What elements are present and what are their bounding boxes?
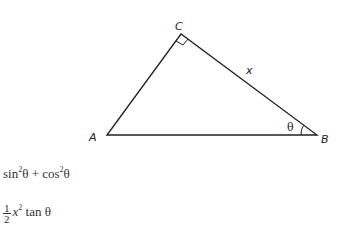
expr-tan-theta: tan θ bbox=[22, 204, 51, 219]
vertex-label-a: A bbox=[88, 131, 97, 144]
vertex-label-b: B bbox=[321, 133, 329, 146]
vertex-label-c: C bbox=[175, 20, 183, 33]
expression-sin-cos: sin2θ + cos2θ bbox=[3, 166, 70, 182]
figure-stage: C A B x θ sin2θ + cos2θ 1 2 x2 tan θ bbox=[0, 0, 343, 242]
angle-label-theta: θ bbox=[287, 121, 294, 134]
angle-arc-b bbox=[301, 126, 304, 136]
side-label-x: x bbox=[245, 64, 253, 77]
expression-half-x-squared-tan: 1 2 x2 tan θ bbox=[3, 203, 51, 224]
expr-plus: + bbox=[28, 166, 42, 181]
expr-cos: cos bbox=[42, 166, 59, 181]
fraction-one-half: 1 2 bbox=[3, 203, 11, 224]
triangle-diagram: C A B x θ bbox=[0, 0, 343, 242]
expr-sin: sin bbox=[3, 166, 18, 181]
triangle-abc bbox=[107, 34, 317, 135]
expr-theta: θ bbox=[64, 166, 70, 181]
fraction-denominator: 2 bbox=[4, 214, 10, 224]
right-angle-marker bbox=[176, 39, 188, 45]
